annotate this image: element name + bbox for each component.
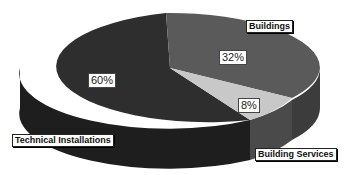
pct-label-buildings: 32% [219,50,247,65]
pct-label-building-services: 8% [238,98,260,113]
legend-label-technical-installations: Technical Installations [12,134,114,147]
legend-label-buildings: Buildings [246,20,293,33]
pct-label-technical-installations: 60% [88,73,116,88]
legend-label-building-services: Building Services [255,148,337,161]
